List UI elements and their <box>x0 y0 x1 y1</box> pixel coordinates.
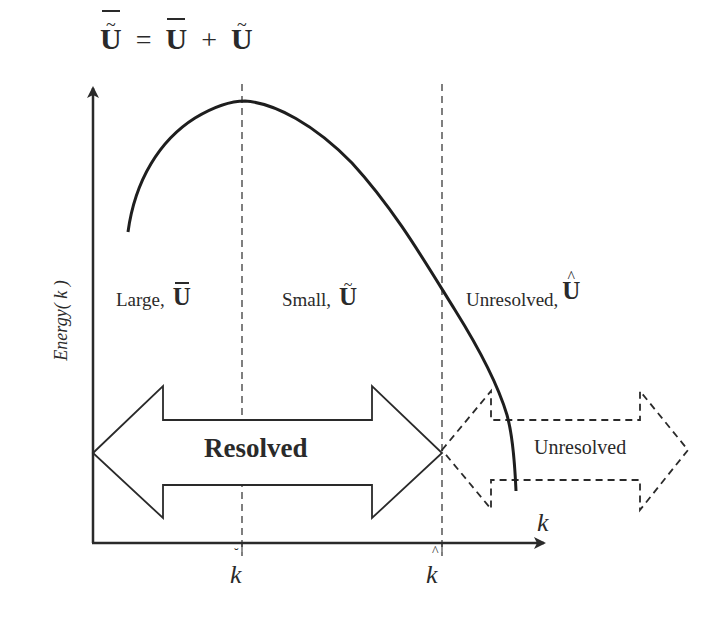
region-label-small: Small, ~ U <box>282 283 357 311</box>
x-axis-label: k <box>537 508 549 538</box>
unresolved-scale-symbol: ^ U <box>562 277 580 305</box>
x-tick-grid-cutoff: ^ k <box>426 560 438 590</box>
equals-sign: = <box>136 24 152 56</box>
hat-mark: ^ <box>432 544 439 560</box>
region-label-unresolved: Unresolved, ^ U <box>466 283 580 311</box>
small-scale-symbol: ~ U <box>231 22 253 56</box>
y-axis-label: Energy( k ) <box>51 266 72 376</box>
x-tick-filter-cutoff: ˘ k <box>230 560 242 590</box>
energy-spectrum-diagram <box>0 0 723 628</box>
overbar-mark <box>102 10 120 12</box>
small-scale-symbol: ~ U <box>339 283 357 311</box>
hat-mark: ^ <box>562 269 580 285</box>
tilde-mark: ~ <box>339 277 357 293</box>
plus-sign: + <box>201 24 217 56</box>
large-scale-symbol: U <box>165 22 187 56</box>
region-label-large: Large, U <box>116 283 191 311</box>
filtered-velocity-symbol: ~ U <box>100 22 122 56</box>
breve-mark: ˘ <box>234 546 239 562</box>
resolved-label: Resolved <box>204 433 308 464</box>
tilde-mark: ~ <box>100 16 122 34</box>
large-scale-symbol: U <box>173 283 191 311</box>
overbar-mark <box>167 18 185 20</box>
unresolved-label: Unresolved <box>534 436 626 459</box>
tilde-mark: ~ <box>231 16 253 34</box>
decomposition-equation: ~ U = U + ~ U <box>100 22 253 56</box>
overbar-mark <box>175 282 189 284</box>
